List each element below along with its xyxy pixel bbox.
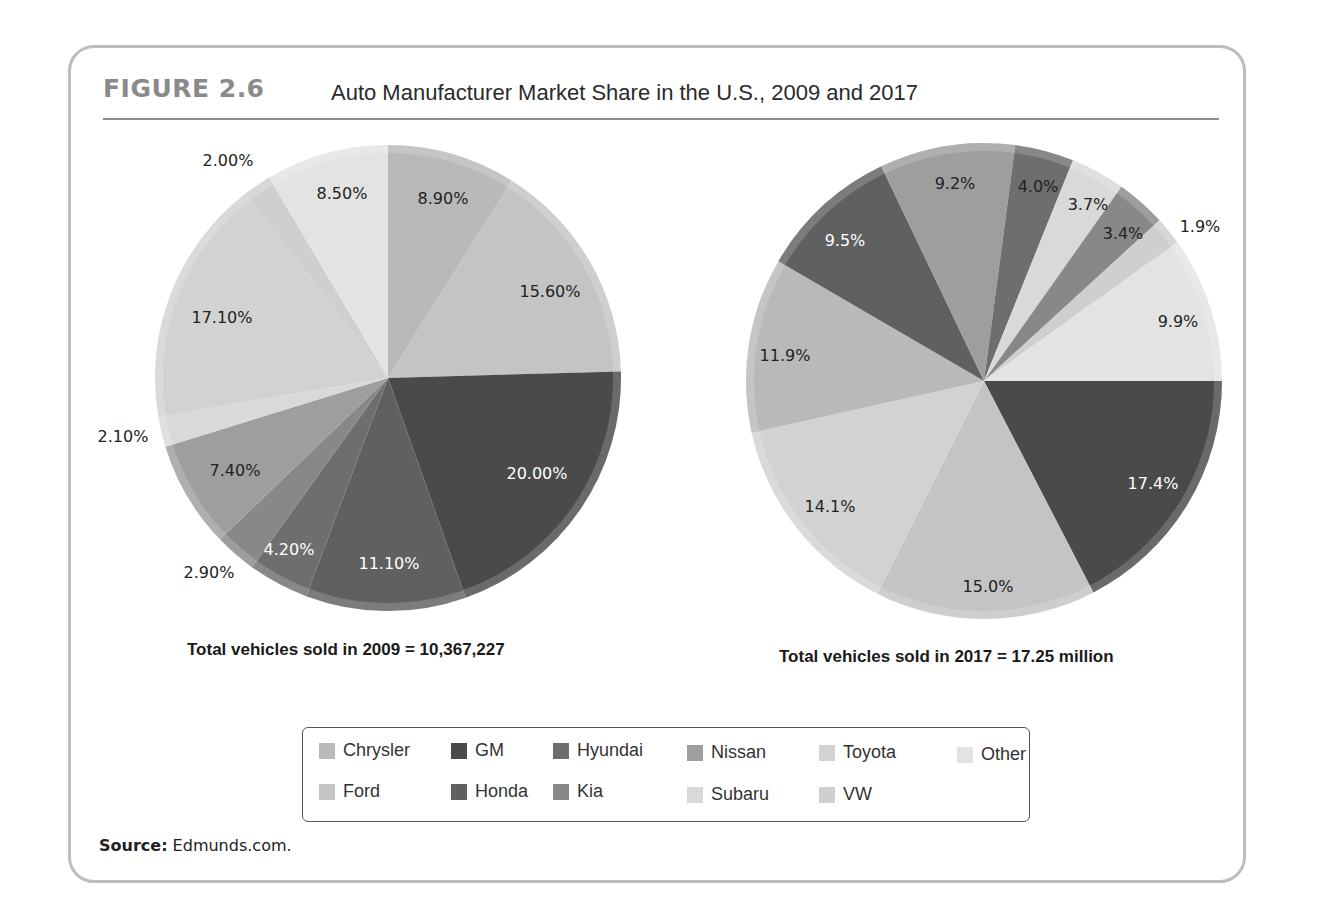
legend-item-ford: Ford: [319, 781, 380, 802]
legend-item-other: Other: [957, 744, 1026, 765]
slice-label-ford: 15.0%: [963, 577, 1014, 596]
legend-label: Kia: [577, 781, 603, 802]
legend-item-subaru: Subaru: [687, 784, 769, 805]
legend-swatch: [687, 787, 703, 803]
legend-swatch: [319, 743, 335, 759]
slice-label-other: 9.9%: [1158, 312, 1199, 331]
legend: Chrysler Ford GM Honda Hyundai Kia Nissa…: [302, 727, 1030, 822]
legend-label: GM: [475, 740, 504, 761]
legend-item-toyota: Toyota: [819, 742, 896, 763]
legend-item-hyundai: Hyundai: [553, 740, 643, 761]
source-text: Edmunds.com.: [168, 836, 292, 855]
legend-swatch: [553, 784, 569, 800]
legend-item-vw: VW: [819, 784, 872, 805]
legend-item-nissan: Nissan: [687, 742, 766, 763]
legend-swatch: [819, 787, 835, 803]
slice-label-honda: 9.5%: [825, 231, 866, 250]
legend-label: Ford: [343, 781, 380, 802]
slice-label-toyota: 17.10%: [191, 308, 252, 327]
slice-label-chrysler: 8.90%: [418, 189, 469, 208]
total-2009-caption: Total vehicles sold in 2009 = 10,367,227: [187, 640, 505, 660]
legend-swatch: [451, 743, 467, 759]
slice-label-vw: 1.9%: [1180, 217, 1221, 236]
slice-label-toyota: 14.1%: [805, 497, 856, 516]
slice-label-kia: 2.90%: [184, 563, 235, 582]
legend-label: Other: [981, 744, 1026, 765]
slice-label-nissan: 9.2%: [935, 174, 976, 193]
legend-item-gm: GM: [451, 740, 504, 761]
slice-label-chrysler: 11.9%: [760, 346, 811, 365]
slice-label-subaru: 3.7%: [1068, 195, 1109, 214]
legend-swatch: [819, 745, 835, 761]
legend-label: Subaru: [711, 784, 769, 805]
legend-item-honda: Honda: [451, 781, 528, 802]
legend-label: VW: [843, 784, 872, 805]
legend-swatch: [451, 784, 467, 800]
slice-label-ford: 15.60%: [519, 282, 580, 301]
legend-item-kia: Kia: [553, 781, 603, 802]
slice-label-hyundai: 4.20%: [264, 540, 315, 559]
legend-label: Nissan: [711, 742, 766, 763]
legend-swatch: [957, 747, 973, 763]
slice-label-nissan: 7.40%: [210, 461, 261, 480]
slice-label-hyundai: 4.0%: [1018, 177, 1059, 196]
source-label: Source:: [99, 836, 168, 855]
slice-label-honda: 11.10%: [358, 554, 419, 573]
legend-label: Toyota: [843, 742, 896, 763]
slice-label-kia: 3.4%: [1103, 224, 1144, 243]
legend-swatch: [319, 784, 335, 800]
legend-swatch: [687, 745, 703, 761]
legend-swatch: [553, 743, 569, 759]
source-note: Source: Edmunds.com.: [99, 836, 292, 855]
slice-label-other: 8.50%: [317, 184, 368, 203]
slice-label-gm: 20.00%: [506, 464, 567, 483]
pie-chart-2009: 8.90%15.60%20.00%11.10%4.20%2.90%7.40%2.…: [98, 145, 621, 611]
slice-label-gm: 17.4%: [1128, 474, 1179, 493]
legend-label: Chrysler: [343, 740, 410, 761]
legend-label: Honda: [475, 781, 528, 802]
slice-label-vw: 2.00%: [203, 151, 254, 170]
total-2017-caption: Total vehicles sold in 2017 = 17.25 mill…: [779, 647, 1114, 667]
legend-item-chrysler: Chrysler: [319, 740, 410, 761]
legend-label: Hyundai: [577, 740, 643, 761]
pie-chart-2017: 17.4%15.0%14.1%11.9%9.5%9.2%4.0%3.7%3.4%…: [746, 143, 1222, 619]
slice-label-subaru: 2.10%: [98, 427, 149, 446]
